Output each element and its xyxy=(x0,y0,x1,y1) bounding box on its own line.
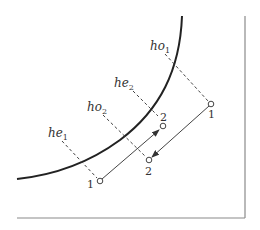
dashed-ho2 xyxy=(103,115,146,157)
label-point-outer-1: 1 xyxy=(208,108,215,121)
label-he2: he2 xyxy=(114,76,134,92)
point-lower-1 xyxy=(97,178,103,184)
label-point-lower-2: 2 xyxy=(145,165,152,178)
point-upper-2 xyxy=(160,123,166,129)
dashed-lines xyxy=(62,54,208,178)
label-ho1: ho1 xyxy=(150,39,170,55)
label-point-upper-2: 2 xyxy=(160,111,167,124)
dashed-he2 xyxy=(133,91,158,116)
label-point-lower-1: 1 xyxy=(87,178,94,191)
point-outer-1 xyxy=(208,101,214,107)
label-ho2: ho2 xyxy=(87,100,107,116)
label-he1: he1 xyxy=(48,126,68,142)
height-labels: ho1 he2 ho2 he1 xyxy=(48,39,170,142)
point-lower-2 xyxy=(146,157,152,163)
dashed-ho1 xyxy=(165,54,208,101)
diagram-canvas: 1 2 2 1 ho1 he2 ho2 he1 xyxy=(0,0,260,230)
points xyxy=(97,101,214,184)
dashed-he1 xyxy=(62,141,97,178)
